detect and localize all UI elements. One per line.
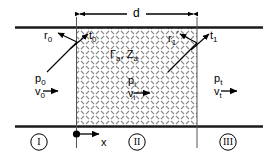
label-t1: t1 <box>210 30 218 44</box>
region-label-2: II <box>127 137 147 147</box>
label-r1-subscript: 1 <box>172 38 176 47</box>
label-r1-prime: r1′ <box>168 30 178 47</box>
layer-properties-label: Γa, Za <box>110 49 138 63</box>
label-vi: vi <box>128 88 135 102</box>
reflected-ray-left <box>58 33 77 42</box>
impedance-subscript: a <box>133 54 137 63</box>
label-t0-subscript: 0 <box>92 35 96 44</box>
dimension-label-d: d <box>133 6 140 20</box>
region-label-1: I <box>29 137 49 147</box>
label-vt-subscript: t <box>220 91 222 100</box>
region-label-3: III <box>218 137 238 147</box>
x-axis-label: x <box>101 137 107 148</box>
label-r0: r0 <box>44 30 52 44</box>
label-r1-prime-mark: ′ <box>176 29 178 39</box>
label-vt: vt <box>214 86 222 100</box>
label-r0-subscript: 0 <box>48 35 52 44</box>
acoustic-layer-diagram: d r0 t0 r1′ t1 Γa, Za p0 v0 pi vi pt vt … <box>0 0 273 161</box>
label-v0-subscript: 0 <box>41 91 45 100</box>
label-vi-subscript: i <box>134 93 136 102</box>
label-t0: t0 <box>89 30 97 44</box>
label-t1-subscript: 1 <box>213 35 217 44</box>
label-v0: v0 <box>35 86 45 100</box>
